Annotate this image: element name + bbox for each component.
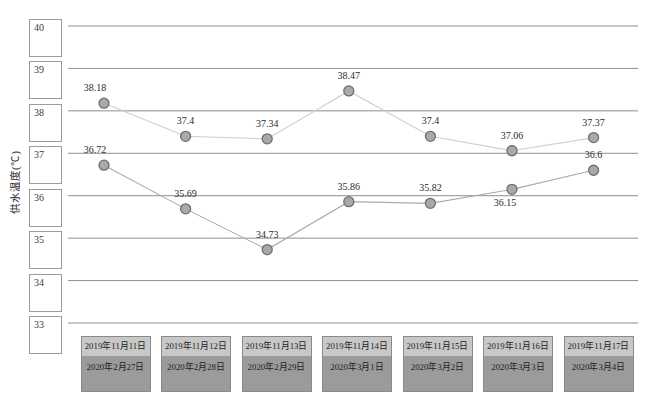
y-tick-label: 37: [34, 149, 44, 160]
supply-water-temperature-line-chart: 供水温度(℃) 403938373635343338.1837.437.3438…: [0, 0, 645, 409]
value-label: 37.06: [490, 130, 534, 141]
data-point-2019-0: [99, 98, 109, 108]
data-point-2020-4: [425, 198, 435, 208]
value-label: 37.37: [572, 117, 616, 128]
x-date-2019-label: 2019年11月17日: [565, 337, 633, 356]
value-label: 34.73: [245, 229, 289, 240]
value-label: 37.34: [245, 118, 289, 129]
x-date-2019-label: 2019年11月12日: [162, 337, 230, 356]
y-tick-label: 34: [34, 277, 44, 288]
y-tick-box-38: 38: [29, 104, 62, 142]
x-category-box: 2019年11月17日2020年3月4日: [564, 336, 634, 392]
y-tick-label: 39: [34, 64, 44, 75]
x-date-2020-label: 2020年3月3日: [484, 356, 552, 392]
x-date-2020-label: 2020年3月1日: [323, 356, 391, 392]
y-tick-box-37: 37: [29, 146, 62, 184]
x-date-2019-label: 2019年11月14日: [323, 337, 391, 356]
x-date-2020-label: 2020年3月2日: [404, 356, 472, 392]
data-point-2020-1: [181, 204, 191, 214]
x-date-2020-label: 2020年2月27日: [82, 356, 150, 392]
x-date-2020-label: 2020年3月4日: [565, 356, 633, 392]
x-date-2020-label: 2020年2月29日: [243, 356, 311, 392]
value-label: 36.15: [483, 197, 527, 208]
y-tick-box-33: 33: [29, 316, 62, 354]
x-category-box: 2019年11月13日2020年2月29日: [242, 336, 312, 392]
data-point-2019-4: [425, 131, 435, 141]
data-point-2019-2: [262, 134, 272, 144]
y-tick-box-35: 35: [29, 231, 62, 269]
y-tick-box-36: 36: [29, 189, 62, 227]
data-point-2019-5: [507, 146, 517, 156]
x-category-box: 2019年11月16日2020年3月3日: [483, 336, 553, 392]
x-date-2019-label: 2019年11月15日: [404, 337, 472, 356]
value-label: 38.47: [327, 70, 371, 81]
value-label: 35.82: [408, 182, 452, 193]
y-tick-box-34: 34: [29, 274, 62, 312]
y-tick-box-39: 39: [29, 61, 62, 99]
data-point-2019-1: [181, 131, 191, 141]
x-category-box: 2019年11月15日2020年3月2日: [403, 336, 473, 392]
data-point-2020-6: [589, 165, 599, 175]
x-category-box: 2019年11月14日2020年3月1日: [322, 336, 392, 392]
value-label: 37.4: [164, 115, 208, 126]
y-tick-label: 35: [34, 234, 44, 245]
y-tick-label: 33: [34, 319, 44, 330]
data-point-2019-3: [344, 86, 354, 96]
data-point-2020-2: [262, 245, 272, 255]
data-point-2019-6: [589, 133, 599, 143]
y-tick-label: 36: [34, 192, 44, 203]
data-point-2020-5: [507, 184, 517, 194]
y-tick-label: 40: [34, 22, 44, 33]
y-tick-label: 38: [34, 107, 44, 118]
value-label: 35.86: [327, 181, 371, 192]
value-label: 37.4: [408, 115, 452, 126]
data-point-2020-3: [344, 197, 354, 207]
x-date-2020-label: 2020年2月28日: [162, 356, 230, 392]
value-label: 38.18: [73, 82, 117, 93]
data-point-2020-0: [99, 160, 109, 170]
value-label: 36.72: [73, 144, 117, 155]
x-date-2019-label: 2019年11月16日: [484, 337, 552, 356]
x-date-2019-label: 2019年11月13日: [243, 337, 311, 356]
x-category-box: 2019年11月12日2020年2月28日: [161, 336, 231, 392]
x-date-2019-label: 2019年11月11日: [82, 337, 150, 356]
y-tick-box-40: 40: [29, 19, 62, 57]
value-label: 35.69: [164, 188, 208, 199]
x-category-box: 2019年11月11日2020年2月27日: [81, 336, 151, 392]
value-label: 36.6: [572, 149, 616, 160]
